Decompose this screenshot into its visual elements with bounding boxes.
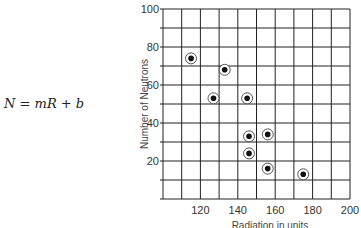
x-axis-ticks: 120140160180200 bbox=[191, 204, 359, 216]
x-tick-label: 200 bbox=[341, 204, 359, 216]
data-point bbox=[262, 163, 273, 174]
y-tick-label: 80 bbox=[147, 41, 159, 53]
data-point bbox=[244, 131, 255, 142]
data-point bbox=[208, 93, 219, 104]
data-point bbox=[219, 64, 230, 75]
chart-grid bbox=[160, 9, 350, 199]
y-axis-title: Number of Neutrons bbox=[139, 59, 150, 149]
x-axis-title: Radiation in units bbox=[232, 220, 309, 228]
x-tick-label: 140 bbox=[229, 204, 247, 216]
x-tick-label: 180 bbox=[303, 204, 321, 216]
x-tick-label: 160 bbox=[266, 204, 284, 216]
data-point bbox=[186, 53, 197, 64]
data-point bbox=[242, 93, 253, 104]
data-point bbox=[262, 129, 273, 140]
y-tick-label: 100 bbox=[141, 3, 159, 15]
y-tick-label: 20 bbox=[147, 155, 159, 167]
data-point bbox=[244, 148, 255, 159]
data-point bbox=[298, 169, 309, 180]
x-tick-label: 120 bbox=[191, 204, 209, 216]
scatter-chart: 20406080100 120140160180200 Number of Ne… bbox=[0, 0, 361, 228]
